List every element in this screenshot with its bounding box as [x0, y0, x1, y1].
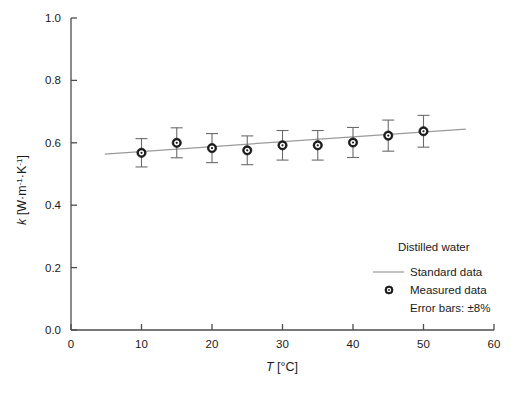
y-tick-label: 1.0	[45, 12, 61, 24]
marker-center-dot	[422, 130, 424, 132]
marker-center-dot	[281, 144, 283, 146]
y-tick-label: 0.2	[45, 262, 61, 274]
legend-label-measured-data: Measured data	[410, 284, 487, 296]
x-tick-label: 60	[488, 338, 501, 350]
x-tick-label: 50	[417, 338, 430, 350]
y-axis-unit-mid: ·K	[15, 165, 29, 178]
chart-figure: 0102030405060 0.00.20.40.60.81.0 T [°C] …	[0, 0, 518, 396]
x-axis-unit: [°C]	[277, 360, 298, 374]
x-tick-label: 10	[135, 338, 148, 350]
y-tick-label: 0.6	[45, 137, 61, 149]
marker-center-dot	[176, 142, 178, 144]
y-tick-label: 0.0	[45, 324, 61, 336]
legend-label-standard-data: Standard data	[410, 266, 483, 278]
plot-background	[0, 0, 518, 396]
marker-center-dot	[317, 144, 319, 146]
x-tick-label: 30	[276, 338, 289, 350]
legend-heading: Distilled water	[398, 241, 470, 253]
y-tick-label: 0.8	[45, 74, 61, 86]
y-tick-label: 0.4	[45, 199, 62, 211]
legend-error-bars-note: Error bars: ±8%	[410, 302, 490, 314]
y-axis-unit-open: [W·m	[15, 185, 29, 215]
x-tick-label: 20	[206, 338, 219, 350]
legend-measured-marker-swatch	[385, 286, 393, 294]
marker-center-dot	[352, 141, 354, 143]
marker-center-dot	[246, 149, 248, 151]
marker-center-dot	[211, 147, 213, 149]
y-axis-unit-close: ]	[15, 155, 29, 158]
marker-center-dot	[387, 135, 389, 137]
x-axis-title: T [°C]	[266, 360, 298, 374]
thermal-conductivity-scatter-plot: 0102030405060 0.00.20.40.60.81.0 T [°C] …	[0, 0, 518, 396]
x-tick-label: 0	[68, 338, 74, 350]
x-tick-label: 40	[347, 338, 360, 350]
marker-center-dot	[140, 152, 142, 154]
